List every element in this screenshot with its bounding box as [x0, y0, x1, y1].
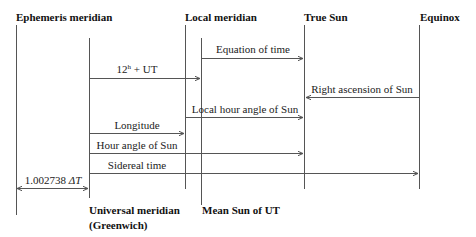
ephemeris-meridian-label: Ephemeris meridian — [16, 11, 112, 23]
longitude-label: Longitude — [114, 119, 159, 131]
twelve-h-ut-label: 12h + UT — [117, 63, 158, 75]
sidereal-time-label: Sidereal time — [108, 159, 166, 171]
true-sun-label: True Sun — [304, 11, 348, 23]
meridian-time-diagram: Ephemeris meridian Local meridian True S… — [0, 0, 476, 237]
delta-t-label: 1.002738 ΔT — [25, 174, 82, 186]
universal-meridian-label: Universal meridian — [89, 204, 180, 216]
local-hour-angle-label: Local hour angle of Sun — [192, 103, 299, 115]
equation-of-time-label: Equation of time — [216, 43, 290, 55]
greenwich-label: (Greenwich) — [89, 219, 148, 232]
hour-angle-label: Hour angle of Sun — [97, 139, 178, 151]
equinox-label: Equinox — [420, 11, 460, 23]
diagram-canvas: Ephemeris meridian Local meridian True S… — [0, 0, 476, 237]
right-ascension-label: Right ascension of Sun — [311, 83, 413, 95]
mean-sun-label: Mean Sun of UT — [202, 204, 281, 216]
local-meridian-label: Local meridian — [185, 11, 257, 23]
